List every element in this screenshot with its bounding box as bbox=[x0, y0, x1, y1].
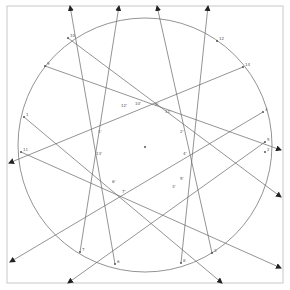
circle-point bbox=[23, 116, 25, 118]
intersection-label: 9' bbox=[155, 102, 159, 107]
ray-line bbox=[21, 152, 281, 268]
circle-point bbox=[242, 66, 244, 68]
circle-point bbox=[216, 40, 218, 42]
frame bbox=[7, 6, 283, 283]
circle-point bbox=[44, 65, 46, 67]
circle-point bbox=[114, 263, 116, 265]
intersection-label: 2' bbox=[180, 129, 184, 134]
circle-point bbox=[79, 251, 81, 253]
inner-labels-group: 12'10'9'11'1'13'2'4'6'7'3'5' bbox=[96, 101, 187, 194]
center-point bbox=[144, 146, 146, 148]
intersection-label: 12' bbox=[121, 103, 127, 108]
ray-line bbox=[181, 6, 208, 263]
lines-group bbox=[9, 6, 281, 283]
point-label: 3 bbox=[214, 248, 217, 253]
circle-point bbox=[20, 151, 22, 153]
circle-point bbox=[264, 141, 266, 143]
ray-line bbox=[157, 6, 212, 253]
point-label: 7 bbox=[82, 247, 85, 252]
point-label: 12 bbox=[219, 36, 225, 41]
point-label: 10 bbox=[70, 33, 76, 38]
intersection-label: 1' bbox=[98, 129, 102, 134]
point-label: 5 bbox=[267, 137, 270, 142]
intersection-label: 5' bbox=[180, 176, 184, 181]
point-label: 6 bbox=[117, 259, 120, 264]
ray-line bbox=[10, 112, 263, 262]
circle-point bbox=[180, 262, 182, 264]
intersection-label: 13' bbox=[96, 151, 102, 156]
point-label: 11 bbox=[23, 147, 29, 152]
circle bbox=[18, 18, 272, 272]
geometry-diagram: 10911176832541412 12'10'9'11'1'13'2'4'6'… bbox=[0, 0, 290, 290]
intersection-label: 7' bbox=[122, 189, 126, 194]
ray-line bbox=[24, 117, 222, 283]
intersection-label: 4' bbox=[183, 151, 187, 156]
intersection-label: 3' bbox=[172, 184, 176, 189]
intersection-label: 11' bbox=[165, 109, 171, 114]
intersection-label: 6' bbox=[112, 179, 116, 184]
point-label: 1 bbox=[26, 112, 29, 117]
intersection-label: 10' bbox=[135, 101, 141, 106]
point-label: 2 bbox=[267, 147, 270, 152]
circle-point bbox=[211, 252, 213, 254]
point-label: 8 bbox=[183, 258, 186, 263]
point-label: 14 bbox=[245, 62, 251, 67]
ray-line bbox=[45, 66, 281, 150]
circle-point bbox=[67, 37, 69, 39]
diagram-canvas: 10911176832541412 12'10'9'11'1'13'2'4'6'… bbox=[0, 0, 290, 290]
circle-point bbox=[262, 111, 264, 113]
circle-point bbox=[264, 151, 266, 153]
points-group: 10911176832541412 bbox=[20, 33, 270, 265]
